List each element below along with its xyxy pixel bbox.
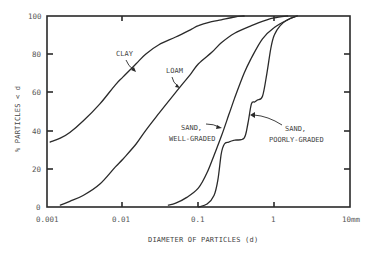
curves: [50, 16, 297, 207]
sand-poorly-graded-arrowhead: [250, 112, 255, 118]
sand-poorly-graded-label-2: POORLY-GRADED: [269, 136, 324, 144]
x-tick-label: 0.1: [191, 215, 205, 224]
y-tick-label: 20: [32, 165, 42, 174]
sand-well-graded-label-2: WELL-GRADED: [169, 135, 215, 143]
loam-label: LOAM: [166, 67, 183, 75]
x-axis-title: DIAMETER OF PARTICLES (d): [148, 236, 258, 244]
y-tick-label: 60: [32, 88, 42, 97]
x-tick-label: 1: [271, 215, 276, 224]
y-axis-title: % PARTICLES < d: [14, 86, 22, 152]
particle-size-distribution-chart: 0.001 0.01 0.1 1 10mm 0 20 40 60 80 100 …: [0, 0, 370, 254]
x-ticks: [122, 16, 274, 207]
sand-well-graded-label-1: SAND,: [181, 124, 202, 132]
annotation-arrows: [126, 60, 282, 129]
curve-sand-poorly-graded: [199, 16, 298, 207]
y-tick-label: 0: [36, 203, 41, 212]
y-tick-label: 40: [32, 127, 42, 136]
sand-well-graded-arrowhead: [216, 125, 222, 129]
sand-poorly-graded-arrow: [254, 115, 282, 125]
x-tick-label: 0.01: [112, 215, 130, 224]
y-tick-label: 100: [28, 12, 42, 21]
curve-clay: [50, 16, 244, 142]
y-tick-label: 80: [32, 50, 42, 59]
x-tick-label: 0.001: [36, 215, 59, 224]
sand-poorly-graded-label-1: SAND,: [285, 125, 306, 133]
x-tick-label: 10mm: [342, 215, 361, 224]
clay-label: CLAY: [116, 50, 134, 58]
curve-sand-well-graded: [168, 16, 297, 205]
